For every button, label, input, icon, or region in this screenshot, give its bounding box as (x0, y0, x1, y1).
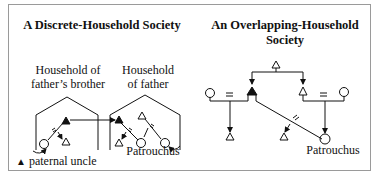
descent-arrow (122, 132, 126, 139)
marriage-sign-icon (226, 93, 233, 96)
father-triangle-icon (138, 112, 146, 119)
female-circle-icon (206, 89, 215, 98)
male-triangle-icon (115, 139, 123, 146)
marriage-sign-icon (293, 115, 299, 120)
grandfather-triangle-icon (272, 61, 280, 68)
paternal-uncle-moved-icon (115, 116, 123, 123)
descent-line (144, 128, 148, 137)
curved-arrow-icon (169, 146, 180, 149)
male-triangle-icon (62, 138, 70, 145)
ego-circle-icon (161, 139, 170, 148)
marriage-line (256, 95, 322, 139)
descent-line (276, 72, 303, 84)
descent-arrow (285, 124, 290, 132)
female-circle-icon (340, 88, 349, 97)
male-triangle-icon (280, 133, 288, 140)
female-circle-icon (137, 139, 146, 148)
descent-arrow (58, 132, 62, 139)
paternal-uncle-icon (247, 87, 257, 95)
paternal-uncle-icon (62, 117, 70, 124)
marriage-sign-icon (320, 93, 327, 96)
marriage-sign-icon (128, 128, 132, 132)
descent-line (252, 68, 276, 84)
father-triangle-icon (299, 87, 307, 95)
male-triangle-icon (226, 133, 234, 140)
kinship-diagrams (0, 0, 381, 179)
female-circle-icon (40, 140, 49, 149)
curved-arrow-icon (33, 149, 46, 153)
marriage-sign-icon (150, 124, 154, 128)
